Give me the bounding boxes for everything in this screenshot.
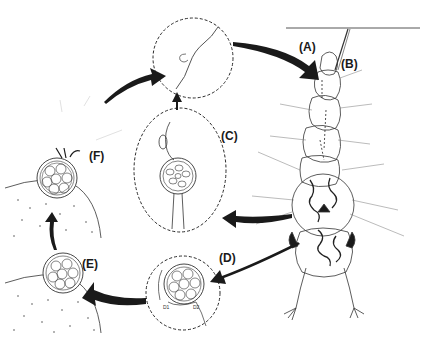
germinating-cyst-F <box>5 96 122 238</box>
label-D: (D) <box>219 252 236 264</box>
label-E: (E) <box>82 258 98 270</box>
larva-illustration <box>252 29 404 320</box>
cyst-magnified-circle <box>146 256 220 330</box>
diagram-canvas <box>0 0 428 338</box>
arrow-F-to-top <box>104 68 166 104</box>
label-B: (B) <box>341 58 358 70</box>
label-C: (C) <box>221 130 238 142</box>
life-cycle-diagram: (A) (B) (C) (D) (E) (F) D1 D2 <box>0 0 428 338</box>
arrow-C-to-top <box>172 92 182 110</box>
label-F: (F) <box>89 150 104 162</box>
arrow-E-to-F <box>45 212 58 250</box>
label-D2: D2 <box>193 305 199 310</box>
arrow-larva-to-C <box>222 210 292 228</box>
arrow-D-to-E <box>82 282 146 306</box>
label-A: (A) <box>299 41 316 53</box>
zoospore-magnified-circle <box>153 18 233 98</box>
label-D1: D1 <box>163 305 169 310</box>
sporangium-magnified-circle <box>134 108 226 232</box>
